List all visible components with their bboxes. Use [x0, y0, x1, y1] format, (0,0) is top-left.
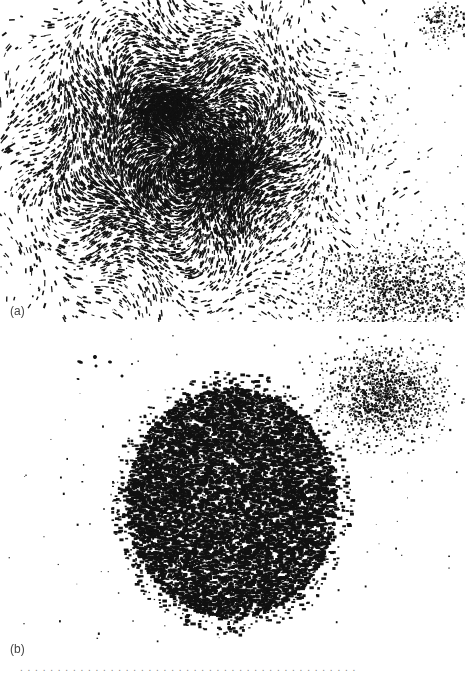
- caption-text: . . . . . . . . . . . . . . . . . . . . …: [0, 666, 465, 673]
- panel-label-b: (b): [10, 642, 25, 656]
- panel-label-a: (a): [10, 304, 25, 318]
- micrograph-image-b: [0, 334, 465, 652]
- figure-caption-cutoff: . . . . . . . . . . . . . . . . . . . . …: [0, 666, 465, 675]
- micrograph-image-a: [0, 0, 465, 322]
- figure-panel-b: [0, 334, 465, 652]
- figure-panel-a: [0, 0, 465, 322]
